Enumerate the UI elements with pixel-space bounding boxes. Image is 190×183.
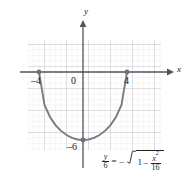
tick-label-4: 4 [124, 76, 129, 86]
fraction-denominator-6: 6 [103, 162, 109, 170]
exponent-2: 2 [156, 150, 159, 156]
tick-label-neg4: –4 [31, 76, 41, 86]
fraction-y-over-6: y 6 [102, 153, 109, 170]
radical-sign-icon [127, 150, 136, 172]
equals-sign: = [112, 157, 117, 166]
point-0-neg6 [81, 138, 86, 143]
graph-figure: y x –4 0 4 –6 y 6 = – 1 – x2 16 [0, 0, 190, 183]
square-root: 1 – x2 16 [127, 150, 164, 172]
fraction-denominator-16: 16 [151, 164, 161, 172]
y-axis-label: y [84, 7, 88, 16]
grid-major [28, 40, 161, 150]
radicand-minus: – [144, 158, 149, 167]
tick-label-neg6: –6 [67, 142, 77, 152]
point-neg4-0 [37, 70, 42, 75]
fraction-xsq-over-16: x2 16 [151, 152, 161, 172]
radicand: 1 – x2 16 [136, 150, 164, 172]
tick-label-origin: 0 [71, 76, 76, 86]
point-4-0 [125, 70, 130, 75]
negative-sign: – [120, 157, 125, 166]
fraction-numerator-y: y [103, 153, 109, 161]
fraction-numerator-xsq: x2 [151, 152, 160, 163]
x-axis-label: x [177, 65, 181, 74]
radicand-one: 1 [138, 158, 143, 167]
equation-expression: y 6 = – 1 – x2 16 [101, 150, 164, 172]
